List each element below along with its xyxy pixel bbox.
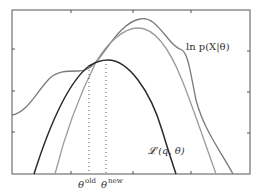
theta-new-symbol: θ bbox=[101, 179, 107, 190]
log-likelihood-label: ln p(X|θ) bbox=[186, 41, 230, 52]
theta-new-label: θnew bbox=[101, 177, 123, 190]
theta-old-superscript: old bbox=[85, 177, 96, 185]
axes-frame bbox=[12, 10, 250, 174]
lower-bound-label: 𝓛 (q, θ) bbox=[148, 145, 185, 157]
tick-marks bbox=[12, 10, 250, 174]
theta-new-superscript: new bbox=[108, 177, 123, 185]
em-diagram bbox=[0, 0, 258, 192]
theta-old-symbol: θ bbox=[78, 179, 84, 190]
theta-old-label: θold bbox=[78, 177, 96, 190]
